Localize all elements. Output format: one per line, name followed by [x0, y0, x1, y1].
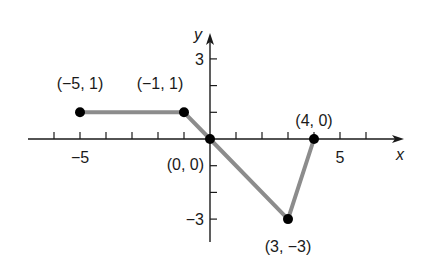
y-axis-label: y — [193, 26, 203, 43]
data-point — [75, 107, 85, 117]
chart: xy−553−3(−5, 1)(−1, 1)(0, 0)(3, −3)(4, 0… — [0, 0, 424, 271]
data-point — [283, 214, 293, 224]
axes — [28, 33, 404, 242]
point-label: (4, 0) — [295, 112, 332, 129]
data-point — [205, 134, 215, 144]
point-label: (0, 0) — [167, 156, 204, 173]
x-axis-label: x — [395, 146, 405, 163]
point-label: (−1, 1) — [137, 75, 184, 92]
data-point — [309, 134, 319, 144]
y-tick-label: 3 — [195, 51, 204, 68]
y-tick-label: −3 — [186, 211, 204, 228]
labels: xy−553−3(−5, 1)(−1, 1)(0, 0)(3, −3)(4, 0… — [57, 26, 405, 255]
x-tick-label: −5 — [71, 149, 89, 166]
point-label: (3, −3) — [265, 238, 312, 255]
data-point — [179, 107, 189, 117]
x-tick-label: 5 — [336, 149, 345, 166]
point-label: (−5, 1) — [57, 75, 104, 92]
